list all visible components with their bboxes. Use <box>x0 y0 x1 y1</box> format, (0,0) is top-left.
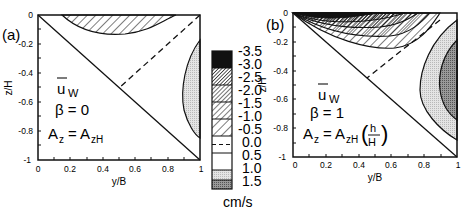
y-tick-label: -0.6 <box>273 94 288 104</box>
x-tick-label: 0.6 <box>129 164 141 174</box>
svg-text:A: A <box>335 125 345 142</box>
panel-a: 0 0.2 0.4 0.6 0.8 1 0 -0.2 -0.4 -0.6 -0.… <box>2 10 204 187</box>
variable-annotation: u W <box>57 78 79 99</box>
positive-lens-region <box>183 40 200 138</box>
figure-canvas: 0 0.2 0.4 0.6 0.8 1 0 -0.2 -0.4 -0.6 -0.… <box>0 0 468 217</box>
beta-annotation: β = 1 <box>310 104 344 121</box>
svg-text:): ) <box>381 121 388 146</box>
y-tick-label: -0.2 <box>18 39 33 49</box>
svg-text:h: h <box>370 122 376 134</box>
y-axis-label: z/H <box>257 78 268 93</box>
x-tick-label: 0.6 <box>385 160 397 170</box>
y-tick-label: -0.8 <box>273 123 288 133</box>
svg-text:zH: zH <box>91 134 103 145</box>
svg-text:=: = <box>323 125 332 142</box>
x-tick-label: 0 <box>293 160 298 170</box>
x-tick-label: 0.2 <box>320 160 332 170</box>
x-axis-label: y/B <box>112 176 127 187</box>
y-axis-label: z/H <box>3 81 14 96</box>
svg-text:A: A <box>303 125 313 142</box>
x-tick-label: 1 <box>199 164 204 174</box>
y-tick-label: -1 <box>23 155 31 165</box>
svg-text:=: = <box>68 125 77 142</box>
panel-label: (b) <box>266 16 284 33</box>
svg-text:A: A <box>80 125 90 142</box>
colorbar: -3.5 -3.0 -2.5 -2.0 -1.5 -1.0 -0.5 0.0 0… <box>212 43 262 210</box>
svg-text:W: W <box>68 87 79 99</box>
x-tick-label: 0.4 <box>353 160 365 170</box>
colorbar-units: cm/s <box>223 194 253 210</box>
x-tick-label: 1 <box>456 160 461 170</box>
y-tick-label: -0.8 <box>18 126 33 136</box>
svg-text:u: u <box>318 86 326 103</box>
y-tick-label: -0.6 <box>18 97 33 107</box>
svg-text:A: A <box>48 125 58 142</box>
svg-text:z: z <box>59 134 64 145</box>
y-tick-label: 0 <box>28 10 33 20</box>
x-tick-label: 0 <box>36 164 41 174</box>
x-tick-label: 0.8 <box>418 160 430 170</box>
az-annotation: A z = A zH <box>48 125 103 145</box>
y-tick-label: -0.4 <box>273 66 288 76</box>
svg-text:zH: zH <box>346 134 358 145</box>
panel-label: (a) <box>2 26 20 43</box>
y-tick-label: -0.4 <box>18 68 33 78</box>
svg-text:H: H <box>368 136 376 148</box>
beta-annotation: β = 0 <box>55 101 89 118</box>
colorbar-label: 1.5 <box>242 173 262 189</box>
panel-b: 0 0.2 0.4 0.6 0.8 1 0 -0.2 -0.4 -0.6 -0.… <box>257 8 461 183</box>
x-tick-label: 0.4 <box>97 164 109 174</box>
y-tick-label: -0.2 <box>273 37 288 47</box>
svg-text:u: u <box>57 80 65 97</box>
svg-text:z: z <box>314 134 319 145</box>
negative-lens-region <box>62 15 176 34</box>
x-tick-label: 0.8 <box>162 164 174 174</box>
x-tick-label: 0.2 <box>64 164 76 174</box>
y-tick-label: -1 <box>278 152 286 162</box>
x-axis-label: y/B <box>368 172 383 183</box>
